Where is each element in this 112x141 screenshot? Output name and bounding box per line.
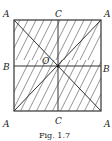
- label-a-bottom-right: A: [103, 119, 111, 129]
- figure-caption: Fig. 1.7: [39, 131, 70, 140]
- label-o-center: O: [42, 56, 50, 66]
- label-a-top-left: A: [2, 9, 10, 19]
- label-b-left: B: [2, 62, 10, 72]
- center-point-o: [57, 65, 60, 68]
- label-a-top-right: A: [103, 9, 111, 19]
- label-c-top: C: [55, 9, 62, 19]
- label-a-bottom-left: A: [2, 119, 10, 129]
- label-c-bottom: C: [55, 116, 62, 126]
- label-b-right: B: [102, 64, 110, 74]
- figure-diagram: A C A B O B A C A Fig. 1.7: [0, 0, 112, 141]
